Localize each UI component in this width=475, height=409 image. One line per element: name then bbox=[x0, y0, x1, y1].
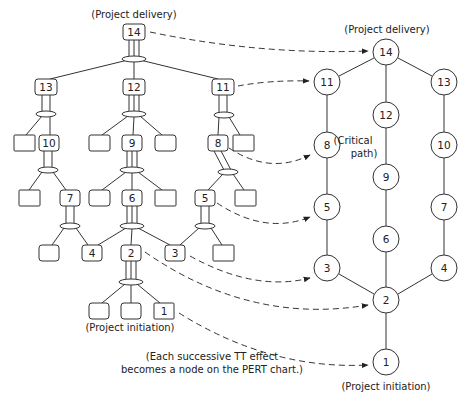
tree-node-blank bbox=[121, 303, 141, 319]
svg-text:12: 12 bbox=[127, 81, 140, 93]
svg-text:1: 1 bbox=[161, 305, 168, 317]
svg-text:8: 8 bbox=[324, 139, 331, 151]
svg-text:10: 10 bbox=[42, 137, 55, 149]
svg-text:6: 6 bbox=[383, 233, 390, 245]
tree-node-blank bbox=[19, 190, 40, 206]
tree-node-4: 4 bbox=[82, 245, 102, 261]
svg-text:11: 11 bbox=[320, 76, 333, 88]
tree-node-blank bbox=[89, 303, 109, 319]
tree-node-10: 10 bbox=[39, 135, 59, 151]
svg-text:6: 6 bbox=[129, 192, 136, 204]
tree-node-13: 13 bbox=[35, 79, 57, 95]
svg-text:13: 13 bbox=[437, 76, 450, 88]
svg-text:14: 14 bbox=[379, 46, 393, 58]
tree-node-blank bbox=[235, 190, 256, 206]
tree-node-7: 7 bbox=[60, 190, 80, 206]
tree-node-blank bbox=[39, 245, 59, 261]
pert-node-3: 3 bbox=[314, 255, 340, 281]
svg-text:14: 14 bbox=[127, 26, 141, 38]
svg-text:7: 7 bbox=[67, 192, 74, 204]
svg-text:7: 7 bbox=[441, 201, 448, 213]
svg-text:12: 12 bbox=[379, 109, 392, 121]
tt-to-pert-diagram: 14 13 12 11 10 9 8 7 6 5 4 2 3 1 (Projec… bbox=[0, 0, 475, 409]
pert-node-6: 6 bbox=[373, 226, 399, 252]
pert-node-4: 4 bbox=[431, 255, 457, 281]
pert-node-5: 5 bbox=[314, 194, 340, 220]
svg-text:3: 3 bbox=[172, 247, 179, 259]
tree-node-1: 1 bbox=[154, 303, 174, 319]
svg-text:3: 3 bbox=[324, 262, 331, 274]
svg-text:9: 9 bbox=[129, 137, 136, 149]
tree-node-9: 9 bbox=[122, 135, 142, 151]
tree-node-blank bbox=[14, 135, 35, 151]
tree-node-11: 11 bbox=[212, 79, 234, 95]
tree-node-5: 5 bbox=[195, 190, 215, 206]
pert-node-7: 7 bbox=[431, 194, 457, 220]
critical-path-label: (Critical bbox=[334, 135, 373, 146]
tree-node-3: 3 bbox=[165, 245, 185, 261]
pert-initiation-label: (Project initiation) bbox=[341, 381, 430, 392]
critical-path-label-2: path) bbox=[351, 148, 378, 159]
pert-node-2: 2 bbox=[373, 287, 399, 313]
note-line-2: becomes a node on the PERT chart.) bbox=[121, 364, 303, 375]
tree-initiation-label: (Project initiation) bbox=[85, 322, 174, 333]
tree-node-6: 6 bbox=[122, 190, 142, 206]
svg-text:13: 13 bbox=[39, 81, 52, 93]
svg-text:11: 11 bbox=[216, 81, 229, 93]
tree-node-blank bbox=[89, 190, 110, 206]
svg-text:9: 9 bbox=[383, 171, 390, 183]
svg-text:1: 1 bbox=[383, 356, 390, 368]
svg-text:10: 10 bbox=[437, 139, 450, 151]
svg-text:2: 2 bbox=[383, 294, 390, 306]
pert-node-13: 13 bbox=[431, 69, 457, 95]
pert-node-12: 12 bbox=[373, 102, 399, 128]
tree-node-12: 12 bbox=[123, 79, 145, 95]
tree-node-2: 2 bbox=[121, 245, 141, 261]
tree-node-14: 14 bbox=[123, 24, 145, 40]
pert-node-9: 9 bbox=[373, 164, 399, 190]
pert-delivery-label: (Project delivery) bbox=[344, 24, 429, 35]
tree-node-blank bbox=[155, 190, 176, 206]
tree-node-blank bbox=[213, 245, 234, 261]
tree-node-blank bbox=[155, 135, 176, 151]
pert-node-10: 10 bbox=[431, 132, 457, 158]
tree-node-blank bbox=[89, 135, 110, 151]
tree-delivery-label: (Project delivery) bbox=[91, 9, 176, 20]
note-line-1: (Each successive TT effect bbox=[146, 351, 278, 362]
pert-node-1: 1 bbox=[373, 349, 399, 375]
pert-node-11: 11 bbox=[314, 69, 340, 95]
svg-text:5: 5 bbox=[202, 192, 209, 204]
tree-node-8: 8 bbox=[208, 135, 228, 151]
svg-text:5: 5 bbox=[324, 201, 331, 213]
pert-node-14: 14 bbox=[373, 39, 399, 65]
tree-node-blank bbox=[233, 135, 254, 151]
svg-text:4: 4 bbox=[89, 247, 96, 259]
svg-text:8: 8 bbox=[215, 137, 222, 149]
svg-text:4: 4 bbox=[441, 262, 448, 274]
svg-text:2: 2 bbox=[128, 247, 135, 259]
